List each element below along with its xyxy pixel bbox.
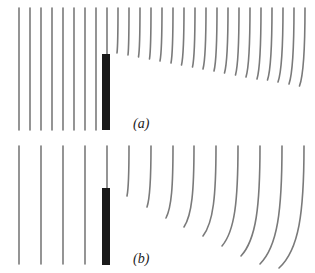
wavefront-line [268,8,273,80]
panel-b-wavefronts [19,146,304,268]
wavefront-line [150,8,152,59]
wavefront-line [225,8,229,73]
wavefront-line [166,146,173,218]
panel-a-wavefronts [19,8,305,130]
wavefront-line [147,146,151,207]
diffraction-diagram [0,0,315,273]
wavefront-line [128,8,129,55]
wavefront-line [184,146,194,227]
wavefront-line [139,8,141,57]
wavefront-line [214,8,217,71]
wavefront-line [236,8,240,75]
wavefront-line [246,8,250,77]
wavefront-line [193,8,196,67]
wavefront-line [260,146,282,264]
wavefront-line [257,8,261,79]
panel-label-a: (a) [133,117,149,131]
panel-label-b: (b) [133,252,149,266]
wavefront-line [241,146,260,256]
wavefront-line [203,8,206,69]
barrier-block [102,188,110,265]
wavefront-line [182,8,185,65]
wavefront-line [171,8,173,63]
wavefront-line [300,8,306,86]
wavefront-line [160,8,162,61]
wavefront-line [117,8,118,53]
wavefront-line [127,146,129,196]
wavefront-line [279,146,304,268]
wavefront-line [203,146,216,236]
barrier-block [102,54,110,130]
wavefront-line [222,146,238,246]
wavefront-line [289,8,294,84]
wavefront-line [278,8,283,82]
diffraction-figure: (a) (b) [0,0,315,273]
